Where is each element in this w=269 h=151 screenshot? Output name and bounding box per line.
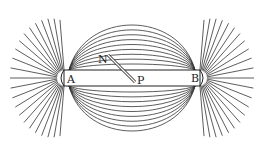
needle-n-label: N [98, 53, 108, 66]
pole-a-label: A [66, 73, 76, 86]
point-p-label: P [137, 74, 145, 87]
pole-b-label: B [191, 72, 199, 85]
magnet-field-diagram: A B N P [0, 0, 269, 151]
